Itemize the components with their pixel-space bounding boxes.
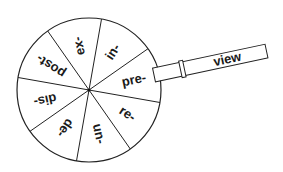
word-strip-body bbox=[153, 44, 268, 82]
word-strip: view bbox=[152, 43, 268, 84]
prefix-wheel-diagram: in- pre- re- un- de- dis- post- ex- view bbox=[0, 0, 283, 172]
wheel-center-pivot bbox=[87, 88, 90, 91]
strip-word-label: view bbox=[212, 48, 244, 69]
